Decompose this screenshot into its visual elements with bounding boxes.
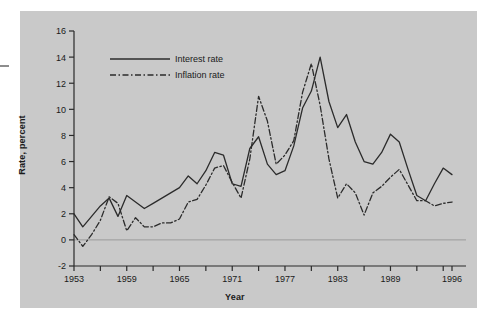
y-tick-label: 4 — [61, 183, 66, 193]
x-tick-label: 1983 — [328, 274, 348, 284]
series-line-interest-rate — [74, 57, 452, 227]
y-tick-label: 6 — [61, 157, 66, 167]
y-tick-label: 12 — [56, 79, 66, 89]
x-tick-label: 1959 — [117, 274, 137, 284]
series-line-inflation-rate — [74, 64, 452, 247]
x-tick-label: 1996 — [442, 274, 462, 284]
y-tick-label: -2 — [58, 261, 66, 271]
y-tick-label: 0 — [61, 235, 66, 245]
y-axis-label: Rate, percent — [17, 105, 27, 185]
x-tick-label: 1953 — [64, 274, 84, 284]
x-tick-label: 1965 — [169, 274, 189, 284]
y-tick-label: 16 — [56, 26, 66, 36]
x-axis-label: Year — [225, 292, 245, 302]
y-tick-label: 8 — [61, 131, 66, 141]
x-tick-label: 1977 — [275, 274, 295, 284]
figure-container: 1614121086420-21953195919651971197719831… — [0, 0, 501, 329]
y-tick-label: 2 — [61, 209, 66, 219]
x-tick-label: 1989 — [380, 274, 400, 284]
x-tick-label: 1971 — [222, 274, 242, 284]
legend-label-interest-rate: Interest rate — [175, 54, 223, 64]
y-tick-label: 14 — [56, 53, 66, 63]
line-chart: 1614121086420-21953195919651971197719831… — [0, 0, 501, 329]
legend-label-inflation-rate: Inflation rate — [175, 70, 225, 80]
y-tick-label: 10 — [56, 105, 66, 115]
